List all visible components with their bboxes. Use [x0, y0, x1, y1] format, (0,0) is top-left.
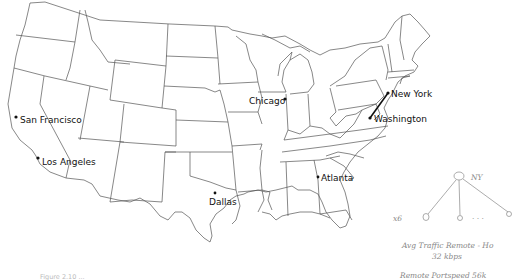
city-chicago: Chicago	[249, 96, 287, 106]
border-az-nm	[110, 142, 120, 202]
border-or-ca	[14, 68, 108, 90]
city-label: Dallas	[209, 197, 237, 207]
tree-leaf-count: x6	[393, 214, 402, 223]
border-oh-pa	[330, 88, 336, 118]
tree-leaf-node	[458, 216, 463, 221]
handwritten-tree-diagram: NY x6 . . .	[393, 172, 512, 223]
handwritten-note-portspeed: Remote Portspeed 56k	[399, 271, 487, 280]
new-york-state	[330, 46, 388, 86]
border-va-nc	[284, 126, 388, 140]
florida	[320, 210, 352, 220]
tree-ellipsis: . . .	[472, 212, 484, 221]
border-wa-id	[70, 10, 80, 68]
border-nv-ut	[80, 86, 90, 140]
tree-edge	[428, 180, 456, 214]
border-mt-dakotas	[166, 24, 168, 66]
border-mn-ia	[218, 82, 258, 84]
city-dallas: Dallas	[209, 192, 237, 207]
border-ok-ar	[232, 146, 236, 190]
city-marker	[386, 91, 389, 94]
tree-edge	[463, 179, 508, 212]
city-marker	[317, 176, 320, 179]
city-marker	[14, 115, 17, 118]
tree-edge	[459, 180, 460, 215]
border-vt-nh	[388, 44, 392, 72]
tree-root-node	[454, 172, 464, 180]
border-mn-wi	[236, 36, 258, 82]
border-wy	[110, 60, 166, 108]
border-la-ms	[262, 190, 272, 210]
city-label: Washington	[374, 114, 427, 124]
city-marker	[368, 116, 371, 119]
border-wa-or	[16, 35, 75, 42]
border-nd-sd	[166, 56, 218, 58]
city-atlanta: Atlanta	[317, 173, 354, 183]
figure-caption: Figure 2.10 ...	[40, 273, 85, 280]
border-ne-ia-mo	[220, 90, 232, 146]
border-in-oh	[308, 94, 310, 126]
city-label: San Francisco	[20, 115, 82, 125]
michigan	[290, 54, 314, 94]
tree-root-label: NY	[470, 173, 484, 182]
tree-leaf-node	[507, 212, 512, 217]
border-nm-tx	[110, 152, 176, 202]
border-ar-la	[238, 190, 264, 212]
city-label: Atlanta	[321, 173, 353, 183]
border-ne-co	[162, 108, 176, 120]
border-nc-sc	[326, 152, 364, 158]
border-id-mt	[85, 10, 130, 64]
border-ky-oh	[288, 126, 322, 134]
city-los-angeles: Los Angeles	[36, 156, 96, 167]
border-id-nv-ut	[66, 68, 70, 80]
border-sd-ne	[164, 86, 220, 92]
border-al-ga	[314, 160, 320, 214]
city-marker	[214, 192, 217, 195]
handwritten-note-avg-traffic: Avg Traffic Remote - Ho	[401, 241, 494, 250]
tree-leaf-node	[423, 214, 429, 221]
border-ms-al	[286, 162, 288, 216]
us-map: San Francisco Los Angeles Chicago Dallas…	[0, 0, 527, 280]
city-new-york: New York	[386, 89, 433, 99]
border-co-nm	[120, 104, 176, 146]
city-marker	[36, 156, 39, 159]
city-label: Los Angeles	[42, 157, 96, 167]
border-ct-ri	[388, 76, 410, 84]
border-ok-tx	[190, 152, 236, 190]
city-san-francisco: San Francisco	[14, 115, 82, 125]
handwritten-note-bandwidth: 32 kbps	[432, 252, 462, 261]
west-virginia	[322, 110, 362, 138]
city-label: Chicago	[249, 96, 286, 106]
border-ne-ks	[176, 120, 228, 122]
border-ut-az	[78, 138, 124, 142]
border-tn-south	[280, 156, 340, 162]
city-label: New York	[391, 89, 433, 99]
city-washington: Washington	[368, 114, 426, 124]
border-ar-mo	[232, 144, 262, 150]
border-dakotas-mn	[215, 26, 220, 84]
border-nh-me	[400, 16, 404, 60]
lake-michigan	[278, 52, 292, 92]
border-ar-ms	[260, 150, 262, 190]
